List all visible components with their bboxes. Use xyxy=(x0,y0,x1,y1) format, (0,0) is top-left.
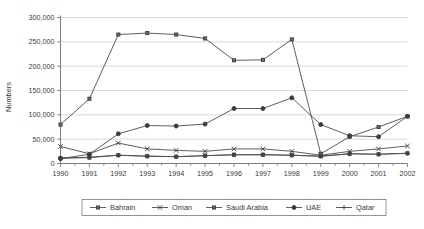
x-tick-label: 1997 xyxy=(255,169,271,178)
legend-item-label: Oman xyxy=(172,203,192,212)
data-point xyxy=(174,124,178,128)
data-series-layer xyxy=(58,32,410,161)
y-axis-tick-marks xyxy=(57,18,61,164)
y-tick-label: 200,000 xyxy=(29,62,55,71)
x-tick-label: 1994 xyxy=(168,169,184,178)
legend-item-label: UAE xyxy=(306,203,321,212)
line-chart: 050,000100,000150,000200,000250,000300,0… xyxy=(0,0,424,229)
y-tick-label: 100,000 xyxy=(29,110,55,119)
legend-item-label: Qatar xyxy=(356,203,375,212)
y-tick-label: 250,000 xyxy=(29,37,55,46)
x-tick-label: 1993 xyxy=(139,169,155,178)
data-point xyxy=(59,123,62,126)
x-tick-label: 2000 xyxy=(342,169,358,178)
y-axis-tick-labels: 050,000100,000150,000200,000250,000300,0… xyxy=(29,13,55,168)
x-tick-label: 1999 xyxy=(313,169,329,178)
data-point xyxy=(88,97,91,100)
data-point xyxy=(377,125,380,128)
x-tick-label: 2001 xyxy=(371,169,387,178)
y-tick-label: 150,000 xyxy=(29,86,55,95)
data-point xyxy=(232,59,235,62)
legend-swatch-marker xyxy=(212,206,215,209)
data-point xyxy=(145,124,149,128)
y-tick-label: 0 xyxy=(51,159,55,168)
data-point xyxy=(146,32,149,35)
legend-item-label: Bahrain xyxy=(110,203,135,212)
data-point xyxy=(348,134,352,138)
data-point xyxy=(290,96,294,100)
x-tick-label: 1991 xyxy=(81,169,97,178)
y-tick-label: 50,000 xyxy=(33,135,55,144)
chart-container: 050,000100,000150,000200,000250,000300,0… xyxy=(0,0,424,229)
x-axis-tick-labels: 1990199119921993199419951996199719981999… xyxy=(53,169,416,178)
data-point xyxy=(203,122,207,126)
y-tick-label: 300,000 xyxy=(29,13,55,22)
legend-swatch-marker xyxy=(96,206,99,209)
series-qatar xyxy=(58,151,410,161)
x-tick-label: 1996 xyxy=(226,169,242,178)
x-tick-label: 1990 xyxy=(53,169,69,178)
series-saudi-arabia xyxy=(59,32,409,156)
x-tick-label: 1998 xyxy=(284,169,300,178)
data-point xyxy=(261,58,264,61)
data-point xyxy=(175,33,178,36)
data-point xyxy=(406,114,410,118)
x-tick-label: 1995 xyxy=(197,169,213,178)
gridlines xyxy=(61,18,408,140)
x-tick-label: 1992 xyxy=(110,169,126,178)
y-axis-title: Numbers xyxy=(4,82,13,112)
data-point xyxy=(319,123,323,127)
data-point xyxy=(232,107,236,111)
x-tick-label: 2002 xyxy=(400,169,416,178)
legend-swatch-marker xyxy=(292,206,296,210)
data-point xyxy=(117,33,120,36)
data-point xyxy=(116,132,120,136)
data-point xyxy=(204,37,207,40)
data-point xyxy=(290,38,293,41)
data-point xyxy=(261,107,265,111)
chart-legend: BahrainOmanSaudi ArabiaUAEQatar xyxy=(82,200,386,216)
data-point xyxy=(377,135,381,139)
x-axis-tick-marks xyxy=(61,164,408,168)
legend-item-label: Saudi Arabia xyxy=(226,203,269,212)
